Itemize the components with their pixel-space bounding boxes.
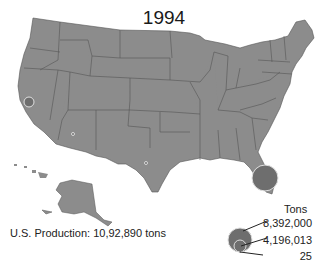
legend-item-medium: 4,196,013 xyxy=(263,234,312,246)
legend-title: Tons xyxy=(284,203,307,215)
bubble-arizona xyxy=(72,133,75,136)
legend-item-small: 25 xyxy=(300,250,312,262)
legend-bubbles xyxy=(228,221,267,255)
hawaii xyxy=(14,164,48,178)
production-total: U.S. Production: 10,92,890 tons xyxy=(10,227,166,239)
legend-item-large: 8,392,000 xyxy=(263,217,312,229)
bubble-texas xyxy=(145,162,148,165)
bubble-california xyxy=(24,97,34,107)
alaska xyxy=(42,180,112,226)
bubble-florida xyxy=(252,165,278,191)
